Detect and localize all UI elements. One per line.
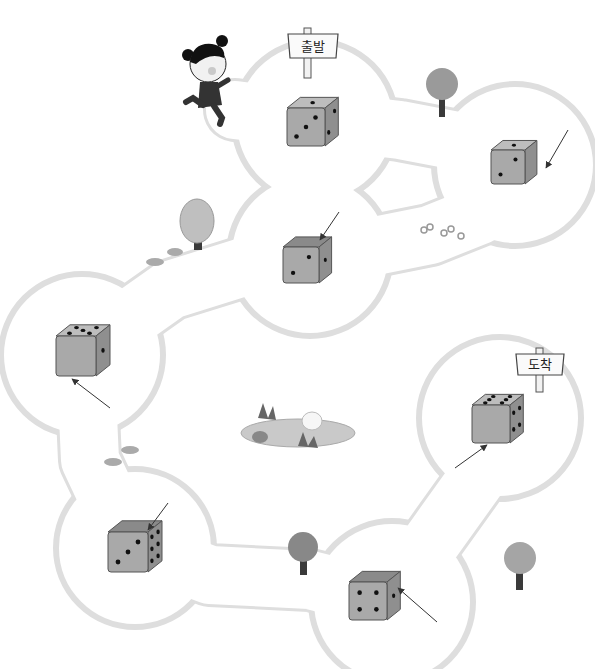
pip (512, 144, 516, 147)
pip (150, 534, 153, 539)
pip (491, 395, 496, 398)
pip (101, 348, 104, 353)
pip (294, 134, 299, 139)
tree-icon (504, 542, 536, 590)
die-2 (491, 140, 537, 184)
die-4 (56, 325, 110, 376)
die-5 (108, 521, 162, 572)
pip (116, 560, 121, 565)
pip (67, 332, 72, 335)
pip (156, 542, 159, 547)
die-7 (472, 394, 523, 443)
pip (324, 258, 327, 262)
pip (333, 109, 336, 114)
die-front-face (491, 150, 525, 184)
pip (498, 172, 502, 176)
pip (357, 607, 362, 612)
die-1 (287, 97, 338, 146)
die-front-face (56, 336, 96, 376)
pip (504, 398, 509, 401)
die-6 (349, 571, 400, 620)
pip (512, 427, 515, 432)
die-front-face (472, 405, 510, 443)
pip (487, 398, 492, 401)
pond-with-duck-illustration (241, 403, 355, 448)
pip (508, 395, 513, 398)
pip (74, 326, 79, 329)
pip (512, 410, 515, 415)
pip (156, 530, 159, 535)
pip (518, 406, 521, 411)
pip (374, 590, 379, 595)
pip (136, 540, 141, 545)
pip (150, 546, 153, 551)
die-front-face (349, 582, 387, 620)
start-sign-label: 출발 (301, 39, 325, 54)
pip (483, 401, 488, 404)
pip (150, 558, 153, 563)
pip (94, 326, 99, 329)
pip (310, 101, 315, 104)
pip (392, 593, 395, 598)
die-front-face (283, 247, 319, 283)
pip (156, 554, 159, 559)
pip (313, 115, 318, 120)
board-game-worksheet: 출발 도착 (0, 0, 595, 669)
pip (513, 157, 517, 161)
pip (307, 255, 311, 259)
pip (126, 550, 131, 555)
pip (291, 271, 295, 275)
pip (500, 401, 505, 404)
pip (374, 607, 379, 612)
pip (81, 329, 86, 332)
die-3 (283, 237, 332, 283)
pip (518, 422, 521, 427)
pip (357, 590, 362, 595)
tree-icon (180, 199, 214, 250)
pip (87, 332, 92, 335)
pip (304, 125, 309, 130)
pip (327, 130, 330, 135)
finish-sign-label: 도착 (528, 357, 552, 372)
